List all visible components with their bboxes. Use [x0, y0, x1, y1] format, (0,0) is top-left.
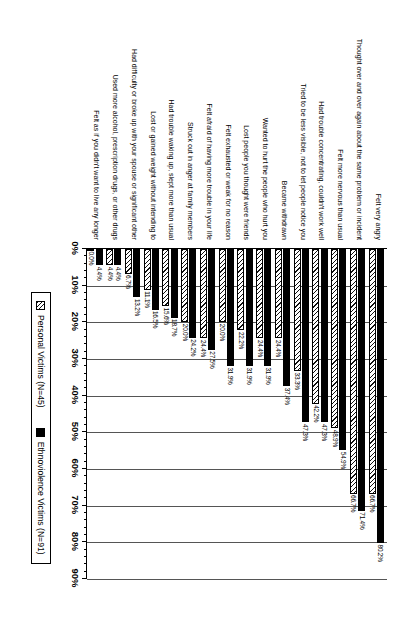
axis-tick-minor	[84, 571, 87, 572]
axis-tick-minor	[84, 380, 87, 381]
plot-area: 80.2%66.7%71.4%66.7%54.9%48.9%47.3%42.2%…	[87, 248, 387, 578]
bar-ethnoviolence	[171, 249, 178, 318]
axis-tick-label: 90%	[70, 568, 81, 587]
axis-tick-major	[82, 431, 87, 432]
axis-tick-minor	[84, 461, 87, 462]
bar-group: 16.5%11.1%	[143, 249, 162, 578]
bar-ethnoviolence	[321, 249, 328, 422]
axis-tick-minor	[84, 527, 87, 528]
category-label: Became withdrawn	[280, 181, 288, 240]
bar-value-label-personal: 48.9%	[332, 430, 339, 447]
bar-value-label-personal: 66.7%	[369, 495, 376, 512]
bar-ethnoviolence	[190, 249, 197, 338]
axis-tick-minor	[84, 453, 87, 454]
bar-personal	[237, 249, 244, 330]
bar-ethnoviolence	[377, 249, 384, 543]
bar-group: 18.7%15.6%	[162, 249, 181, 578]
axis-tick-label: 50%	[70, 422, 81, 441]
bar-group: 13.2%6.7%	[125, 249, 144, 578]
category-label: Lost people you thought were friends	[242, 125, 250, 240]
category-label: Felt afraid of having more trouble in yo…	[205, 103, 213, 240]
bar-value-label-personal: 15.6%	[163, 308, 170, 325]
category-label: Felt exhausted or weak for no reason	[224, 124, 232, 240]
category-label: Felt more nervous than usual	[336, 149, 344, 240]
category-label: Tried to be less visible, not to let peo…	[299, 83, 307, 240]
value-axis-baseline	[86, 248, 87, 578]
bar-value-label-ethnoviolence: 18.7%	[171, 319, 178, 336]
bar-ethnoviolence	[208, 249, 215, 350]
axis-tick-minor	[84, 512, 87, 513]
axis-tick-label: 60%	[70, 458, 81, 477]
bar-personal	[350, 249, 357, 494]
axis-tick-minor	[84, 307, 87, 308]
bar-value-label-personal: 24.4%	[275, 340, 282, 357]
axis-tick-minor	[84, 329, 87, 330]
bar-ethnoviolence	[246, 249, 253, 366]
bar-ethnoviolence	[358, 249, 365, 511]
legend-swatch-hatched-icon	[37, 301, 46, 310]
bar-group: 31.9%24.4%	[256, 249, 275, 578]
bar-value-label-personal: 20.0%	[182, 324, 189, 341]
axis-tick-minor	[84, 534, 87, 535]
gridline	[87, 579, 387, 580]
bar-value-label-ethnoviolence: 13.2%	[134, 299, 141, 316]
axis-tick-minor	[84, 519, 87, 520]
bar-personal	[369, 249, 376, 494]
bar-personal	[312, 249, 319, 404]
axis-tick-minor	[84, 270, 87, 271]
legend-label-personal-victims: Personal Victims (N=45)	[36, 315, 46, 408]
bar-value-label-ethnoviolence: 31.9%	[228, 367, 235, 384]
bar-value-label-personal: 6.7%	[125, 275, 132, 289]
axis-tick-major	[82, 248, 87, 249]
bar-group: 27.5%24.4%	[200, 249, 219, 578]
bar-value-label-personal: 22.2%	[238, 332, 245, 349]
category-label: Had difficulty or broke up with your spo…	[130, 49, 138, 240]
bar-chart-figure: Felt very angryThought over and over aga…	[0, 0, 395, 633]
axis-tick-minor	[84, 343, 87, 344]
axis-tick-minor	[84, 277, 87, 278]
bar-group: 4.4%0.0%	[87, 249, 106, 578]
bar-personal	[275, 249, 282, 338]
value-axis: 0%10%20%30%40%50%60%70%80%90%	[61, 248, 87, 578]
bar-value-label-ethnoviolence: 80.2%	[378, 545, 385, 562]
category-label: Had trouble waking up, slept more than u…	[167, 100, 175, 240]
axis-tick-minor	[84, 387, 87, 388]
bar-ethnoviolence	[152, 249, 159, 310]
bar-ethnoviolence	[227, 249, 234, 366]
axis-tick-minor	[84, 556, 87, 557]
bar-value-label-ethnoviolence: 31.9%	[265, 367, 272, 384]
axis-tick-minor	[84, 373, 87, 374]
legend-item-ethnoviolence-victims: Ethnoviolence Victims (N=91)	[36, 428, 46, 555]
bar-group: 24.2%20.0%	[181, 249, 200, 578]
axis-tick-minor	[84, 402, 87, 403]
bar-personal	[219, 249, 226, 322]
category-label: Struck out in anger at family members	[186, 122, 194, 240]
axis-tick-minor	[84, 563, 87, 564]
legend-item-personal-victims: Personal Victims (N=45)	[36, 301, 46, 408]
bar-value-label-personal: 0.0%	[88, 251, 95, 265]
bar-personal	[181, 249, 188, 322]
axis-tick-major	[82, 541, 87, 542]
bar-group: 80.2%66.7%	[368, 249, 387, 578]
axis-tick-minor	[84, 483, 87, 484]
category-label: Lost or gained weight without intending …	[149, 111, 157, 240]
axis-tick-minor	[84, 424, 87, 425]
bar-value-label-ethnoviolence: 47.3%	[321, 424, 328, 441]
axis-tick-minor	[84, 292, 87, 293]
axis-tick-minor	[84, 255, 87, 256]
bar-value-label-personal: 42.2%	[313, 405, 320, 422]
bar-group: 37.4%24.4%	[275, 249, 294, 578]
axis-tick-minor	[84, 475, 87, 476]
bar-value-label-ethnoviolence: 4.4%	[96, 267, 103, 281]
axis-tick-label: 70%	[70, 495, 81, 514]
axis-tick-label: 30%	[70, 348, 81, 367]
bar-value-label-personal: 24.4%	[257, 340, 264, 357]
axis-tick-major	[82, 321, 87, 322]
bar-value-label-ethnoviolence: 27.5%	[209, 351, 216, 368]
axis-tick-label: 0%	[70, 241, 81, 255]
bar-personal	[331, 249, 338, 428]
axis-tick-major	[82, 578, 87, 579]
bar-ethnoviolence	[115, 249, 122, 265]
axis-tick-major	[82, 505, 87, 506]
category-label: Thought over and over again about the sa…	[355, 39, 363, 240]
